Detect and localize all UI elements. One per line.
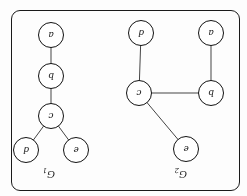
rotated-diagram-content: ebcadedcba G2G1 [0,0,247,196]
graph-node-label: d [23,146,29,155]
graph-title-g2: G2 [175,166,187,180]
graph-node-label: a [208,29,213,38]
graph-node-label: e [183,145,188,154]
graph-node-g2-b[interactable]: b [198,80,224,106]
graph-title-letter: G [47,169,55,180]
graph-node-g2-e[interactable]: e [173,136,199,162]
graph-node-label: b [48,72,54,81]
graph-node-g1-b[interactable]: b [38,63,64,89]
graph-node-label: b [208,89,214,98]
graph-node-label: a [48,31,53,40]
graph-node-g1-a[interactable]: a [38,22,64,48]
graph-node-g2-c[interactable]: c [126,80,152,106]
graph-title-g1: G1 [43,166,55,180]
graph-node-g2-d[interactable]: d [128,20,154,46]
graph-node-label: e [73,146,78,155]
graph-edge [147,102,179,140]
graph-title-subscript: 1 [43,166,47,174]
graph-edge [58,126,69,141]
graph-edge [33,126,44,141]
graph-node-g1-e[interactable]: e [63,137,89,163]
graph-node-g2-a[interactable]: a [198,20,224,46]
graph-node-g1-d[interactable]: d [13,137,39,163]
graph-title-subscript: 2 [175,166,179,174]
graph-title-letter: G [179,169,187,180]
graph-node-label: c [48,112,53,121]
graph-node-g1-c[interactable]: c [38,103,64,129]
graph-edge [139,45,140,81]
graph-node-label: c [136,89,141,98]
graph-node-label: d [138,29,144,38]
graph-figure: ebcadedcba G2G1 [0,0,247,196]
